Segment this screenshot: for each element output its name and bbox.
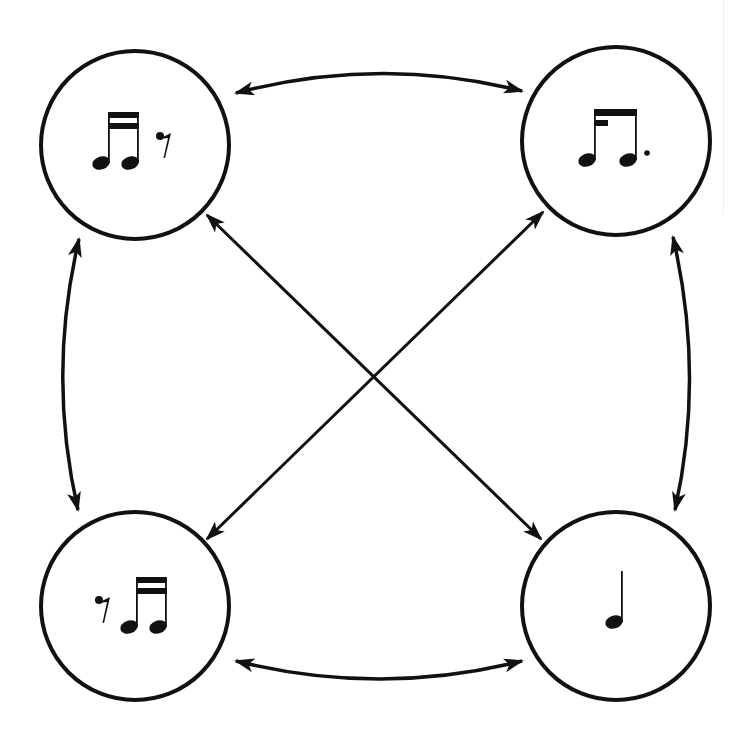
edge-left (63, 239, 79, 510)
edge-right (673, 237, 690, 510)
rhythm-rest-two-sixteenths-icon (95, 577, 169, 636)
node-top-left (41, 51, 229, 239)
rhythm-two-sixteenths-rest-icon (90, 112, 171, 172)
edge-bottom (236, 661, 522, 679)
rhythm-quarter-note-icon (603, 571, 624, 631)
node-bottom-left (41, 512, 229, 700)
node-top-right (522, 47, 710, 235)
rhythm-sixteenth-dotted-eighth-icon (576, 109, 649, 169)
edge-diagonal-tr-bl (207, 212, 543, 539)
edge-top (236, 73, 522, 93)
node-bottom-right (522, 512, 710, 700)
rhythm-diagram (0, 0, 751, 741)
